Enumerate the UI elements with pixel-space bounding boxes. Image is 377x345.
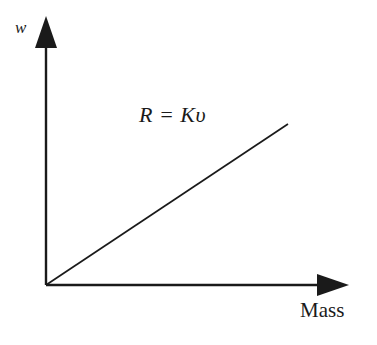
x-axis-arrowhead-icon: [317, 274, 349, 296]
x-axis-label: Mass: [300, 300, 344, 321]
equation-annotation: R = Kυ: [139, 104, 206, 126]
axes-and-plot-svg: [0, 0, 377, 345]
graph-figure: w Mass R = Kυ: [0, 0, 377, 345]
plot-line-series-0: [46, 124, 288, 285]
y-axis-arrowhead-icon: [35, 16, 57, 48]
y-axis-label: w: [15, 19, 26, 36]
